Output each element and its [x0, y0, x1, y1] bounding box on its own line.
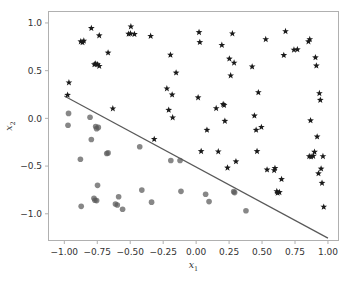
scatter-point-circle: [203, 191, 209, 197]
figure-background: [0, 0, 359, 281]
x-tick-label: −0.25: [149, 247, 177, 257]
scatter-point-circle: [65, 122, 71, 128]
x-tick-label: −1.00: [51, 247, 79, 257]
scatter-point-circle: [66, 111, 72, 117]
scatter-point-circle: [168, 158, 174, 164]
scatter-point-circle: [116, 194, 122, 200]
x-tick-label: 0.00: [186, 247, 206, 257]
scatter-point-circle: [137, 144, 143, 150]
y-tick-label: 0.0: [28, 114, 43, 124]
scatter-plot-figure: −1.00−0.75−0.50−0.250.000.250.500.751.00…: [0, 0, 359, 281]
scatter-point-circle: [243, 208, 249, 214]
scatter-point-circle: [105, 150, 111, 156]
x-tick-label: 0.75: [285, 247, 305, 257]
scatter-point-circle: [114, 202, 120, 208]
scatter-point-circle: [78, 204, 84, 210]
x-tick-labels: −1.00−0.75−0.50−0.250.000.250.500.751.00: [51, 247, 339, 257]
y-tick-label: −0.5: [20, 161, 42, 171]
x-tick-label: 0.25: [219, 247, 239, 257]
scatter-point-circle: [120, 206, 126, 212]
scatter-point-circle: [87, 114, 93, 120]
scatter-point-circle: [149, 199, 155, 205]
x-tick-label: 0.50: [252, 247, 272, 257]
scatter-point-circle: [95, 183, 101, 189]
x-tick-label: −0.75: [83, 247, 111, 257]
scatter-point-circle: [94, 198, 100, 204]
x-tick-label: −0.50: [116, 247, 144, 257]
y-tick-label: 0.5: [28, 66, 42, 76]
scatter-point-circle: [232, 190, 238, 196]
scatter-point-circle: [96, 125, 102, 131]
scatter-point-circle: [178, 189, 184, 195]
scatter-point-circle: [139, 187, 145, 193]
y-tick-label: 1.0: [28, 18, 43, 28]
plot-canvas: −1.00−0.75−0.50−0.250.000.250.500.751.00…: [0, 0, 359, 281]
scatter-point-circle: [89, 137, 95, 143]
scatter-point-circle: [206, 199, 212, 205]
scatter-point-circle: [78, 156, 84, 162]
y-tick-label: −1.0: [20, 209, 42, 219]
x-tick-label: 1.00: [318, 247, 338, 257]
